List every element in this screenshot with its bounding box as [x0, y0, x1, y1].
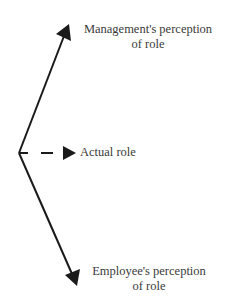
- arrow-actual: [19, 146, 76, 160]
- label-management-line1: Management's perception: [70, 22, 226, 37]
- label-employee-line1: Employee's perception: [80, 264, 218, 279]
- arrow-employee: [19, 153, 80, 286]
- arrowhead-down-icon: [65, 269, 80, 286]
- label-employee: Employee's perception of role: [80, 264, 218, 294]
- label-actual: Actual role: [80, 145, 136, 160]
- label-actual-text: Actual role: [80, 145, 136, 159]
- label-employee-line2: of role: [80, 279, 218, 294]
- arrow-management: [19, 24, 71, 153]
- arrowhead-right-icon: [63, 146, 76, 160]
- label-management: Management's perception of role: [70, 22, 226, 52]
- label-management-line2: of role: [70, 37, 226, 52]
